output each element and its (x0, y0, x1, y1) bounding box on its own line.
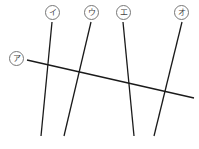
label-i: イ (45, 5, 60, 20)
label-e: エ (116, 5, 131, 20)
line-o (154, 22, 182, 136)
line-a (27, 60, 194, 98)
line-i (41, 22, 52, 136)
label-a: ア (9, 51, 24, 66)
line-u (64, 22, 91, 136)
line-e (123, 22, 134, 136)
lines-diagram (0, 0, 199, 149)
label-u: ウ (84, 5, 99, 20)
label-o: オ (174, 5, 189, 20)
